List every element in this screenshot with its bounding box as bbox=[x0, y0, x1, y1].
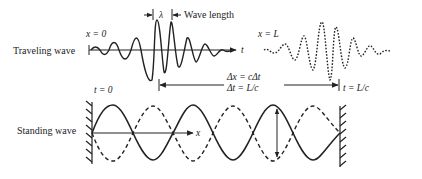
delta-x-label: Δx = cΔt bbox=[226, 72, 261, 82]
x-L-label: x = L bbox=[257, 29, 279, 39]
standing-wave-label: Standing wave bbox=[17, 125, 77, 136]
left-wall bbox=[86, 101, 92, 164]
t-axis-label: t bbox=[241, 45, 244, 55]
x-axis-label: x bbox=[195, 128, 201, 138]
wave-diagram: Traveling wave x = 0 t λ Wave length x =… bbox=[0, 0, 422, 179]
lambda-symbol: λ bbox=[158, 10, 163, 20]
wavelength-label: Wave length bbox=[184, 9, 234, 20]
right-wall bbox=[340, 105, 346, 167]
t-L-over-c-label: t = L/c bbox=[343, 83, 370, 93]
traveling-wave-label: Traveling wave bbox=[13, 45, 76, 56]
delta-t-label: Δt = L/c bbox=[226, 83, 259, 93]
t-zero-label: t = 0 bbox=[94, 85, 113, 95]
x-zero-label: x = 0 bbox=[85, 29, 106, 39]
